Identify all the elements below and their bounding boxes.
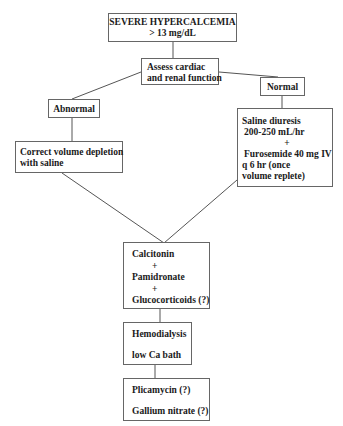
node-saline-diuresis: Saline diuresis 200-250 mL/hr + Furosemi…	[237, 108, 333, 187]
node-dialysis-line1: Hemodialysis	[132, 329, 191, 340]
node-normal: Normal	[260, 77, 305, 96]
edge-assess-to-abnormal	[72, 72, 141, 99]
node-correct-volume: Correct volume depletion with saline	[15, 141, 123, 173]
node-title-line2: > 13 mg/dL	[109, 28, 236, 39]
node-drug-line3: Glucocorticoids (?)	[132, 295, 209, 307]
node-last-line1: Plicamycin (?)	[132, 385, 209, 396]
node-saline-plus: +	[242, 138, 332, 149]
edge-saline-to-drugs	[164, 180, 237, 243]
node-saline-line5: volume replete)	[242, 171, 332, 182]
node-assess-function: Assess cardiac and renal function	[141, 58, 219, 85]
node-drug-plus2: +	[132, 284, 209, 296]
node-severe-hypercalcemia: SEVERE HYPERCALCEMIA > 13 mg/dL	[108, 13, 237, 42]
node-drug-therapy: Calcitonin + Pamidronate + Glucocorticoi…	[123, 242, 210, 309]
node-drug-plus1: +	[132, 261, 209, 273]
node-hemodialysis: Hemodialysis low Ca bath	[123, 322, 192, 365]
node-plicamycin-gallium: Plicamycin (?) Gallium nitrate (?)	[123, 378, 210, 421]
node-correct-line2: with saline	[20, 158, 122, 169]
node-title-line1: SEVERE HYPERCALCEMIA	[109, 17, 236, 28]
node-drug-line2: Pamidronate	[132, 272, 209, 284]
node-saline-line4: q 6 hr (once	[242, 160, 332, 171]
node-saline-line1: Saline diuresis	[242, 116, 332, 127]
node-assess-line1: Assess cardiac	[147, 62, 218, 73]
node-dialysis-line2: low Ca bath	[132, 350, 191, 361]
edge-correct-to-drugs	[62, 173, 164, 243]
node-normal-label: Normal	[261, 82, 304, 93]
node-abnormal: Abnormal	[48, 99, 100, 118]
node-assess-line2: and renal function	[147, 73, 218, 84]
node-saline-line2: 200-250 mL/hr	[242, 127, 332, 138]
node-drug-line1: Calcitonin	[132, 249, 209, 261]
node-correct-line1: Correct volume depletion	[20, 147, 122, 158]
node-saline-line3: Furosemide 40 mg IV	[242, 149, 332, 160]
node-last-line2: Gallium nitrate (?)	[132, 406, 209, 417]
node-abnormal-label: Abnormal	[49, 104, 99, 115]
